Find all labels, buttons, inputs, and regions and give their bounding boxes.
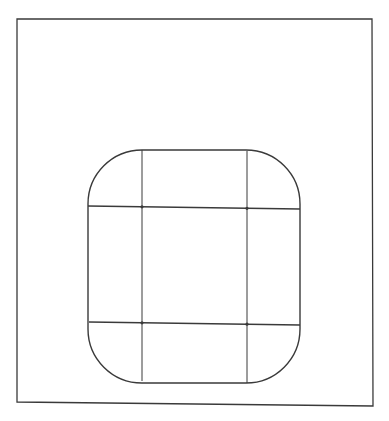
intersection-dot [140,321,143,324]
outer-frame [17,19,373,406]
grid-line-horizontal-bottom [89,322,300,325]
rounded-square [88,150,300,383]
grid-intersections [140,205,248,326]
diagram-canvas [0,0,389,421]
intersection-dot [140,205,143,208]
grid-line-horizontal-top [88,206,300,209]
intersection-dot [245,323,248,326]
intersection-dot [245,207,248,210]
